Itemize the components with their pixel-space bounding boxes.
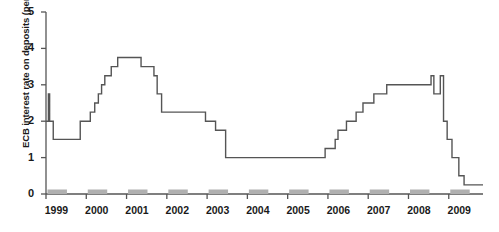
year-band (249, 190, 268, 195)
chart-plot-area (0, 0, 499, 232)
year-band (48, 190, 67, 195)
series-step-path (46, 58, 483, 185)
data-series-line (46, 58, 483, 185)
y-tick-label: 1 (20, 151, 34, 163)
x-tick-label: 2000 (77, 204, 117, 216)
y-tick-label: 0 (20, 187, 34, 199)
chart-container: ECB interest rate on deposits (per cent)… (0, 0, 499, 232)
x-tick-label: 2005 (278, 204, 318, 216)
year-band (329, 190, 348, 195)
year-band (289, 190, 308, 195)
x-tick-label: 2001 (117, 204, 157, 216)
y-tick-label: 3 (20, 78, 34, 90)
y-tick-label: 5 (20, 5, 34, 17)
x-tick-label: 2004 (238, 204, 278, 216)
x-axis-year-bands (48, 190, 470, 195)
x-tick-label: 2009 (439, 204, 479, 216)
x-tick-label: 2008 (399, 204, 439, 216)
x-tick-label: 2002 (157, 204, 197, 216)
x-tick-label: 2003 (198, 204, 238, 216)
year-band (168, 190, 187, 195)
y-tick-label: 4 (20, 41, 34, 53)
chart-axes (41, 12, 483, 199)
y-tick-label: 2 (20, 114, 34, 126)
year-band (88, 190, 107, 195)
year-band (128, 190, 147, 195)
year-band (450, 190, 469, 195)
x-tick-label: 1999 (36, 204, 76, 216)
x-tick-label: 2006 (318, 204, 358, 216)
x-tick-label: 2007 (359, 204, 399, 216)
year-band (410, 190, 429, 195)
year-band (209, 190, 228, 195)
year-band (370, 190, 389, 195)
